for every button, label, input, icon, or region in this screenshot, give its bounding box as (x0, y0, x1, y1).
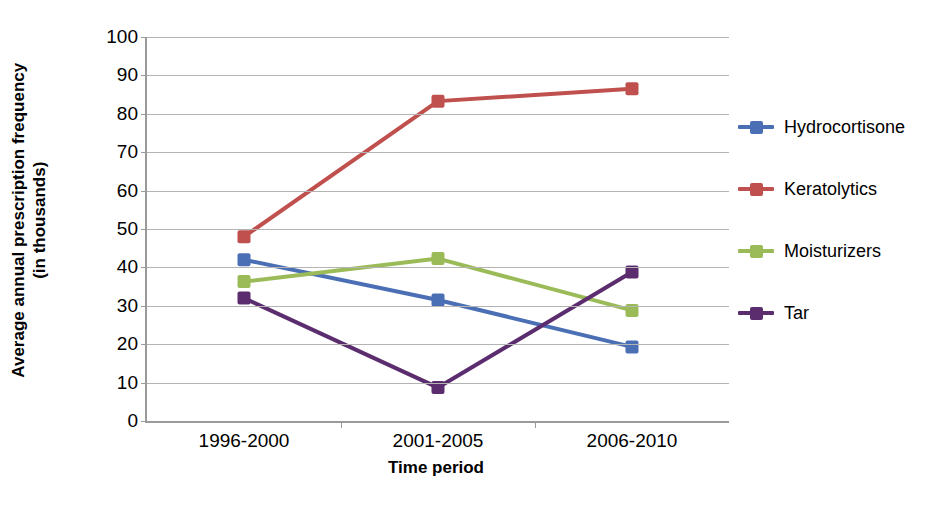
gridline (147, 421, 729, 422)
y-tick-mark (141, 37, 147, 38)
y-tick-label: 70 (117, 141, 138, 163)
x-tick-mark (535, 421, 536, 428)
y-tick-mark (141, 75, 147, 76)
y-tick-label: 40 (117, 256, 138, 278)
legend-marker (750, 183, 763, 196)
legend-swatch-icon (738, 180, 774, 198)
legend-item-hydrocortisone[interactable]: Hydrocortisone (738, 96, 938, 158)
x-tick-label: 1996-2000 (199, 430, 290, 452)
gridline (147, 344, 729, 345)
data-point-marker (432, 95, 445, 108)
data-point-marker (432, 294, 445, 307)
legend-label: Keratolytics (784, 179, 877, 200)
y-tick-label: 0 (127, 410, 138, 432)
legend-marker (750, 121, 763, 134)
gridline (147, 37, 729, 38)
y-tick-label: 30 (117, 295, 138, 317)
y-tick-mark (141, 191, 147, 192)
series-line (244, 272, 632, 388)
y-axis-title-line-1: Average annual prescription frequency (8, 63, 29, 378)
gridline (147, 267, 729, 268)
y-tick-mark (141, 306, 147, 307)
gridline (147, 114, 729, 115)
legend-label: Tar (784, 303, 809, 324)
y-tick-mark (141, 114, 147, 115)
legend-swatch-icon (738, 304, 774, 322)
series-line (244, 89, 632, 237)
chart-page: Average annual prescription frequency (i… (0, 0, 939, 516)
x-tick-mark (341, 421, 342, 428)
x-tick-label: 2006-2010 (587, 430, 678, 452)
y-tick-mark (141, 229, 147, 230)
y-tick-mark (141, 267, 147, 268)
data-point-marker (432, 252, 445, 265)
x-axis-title: Time period (145, 458, 727, 478)
x-tick-label: 2001-2005 (393, 430, 484, 452)
gridline (147, 191, 729, 192)
gridline (147, 75, 729, 76)
y-axis-title: Average annual prescription frequency (i… (0, 0, 58, 440)
data-point-marker (238, 253, 251, 266)
gridline (147, 152, 729, 153)
gridline (147, 229, 729, 230)
data-point-marker (238, 275, 251, 288)
plot-area: 01020304050607080901001996-20002001-2005… (145, 37, 729, 423)
gridline (147, 383, 729, 384)
legend-label: Hydrocortisone (784, 117, 905, 138)
chart-legend: HydrocortisoneKeratolyticsMoisturizersTa… (738, 96, 938, 344)
y-tick-mark (141, 421, 147, 422)
y-tick-label: 60 (117, 180, 138, 202)
y-tick-mark (141, 383, 147, 384)
legend-item-keratolytics[interactable]: Keratolytics (738, 158, 938, 220)
y-axis-title-line-2: (in thousands) (29, 63, 50, 378)
data-point-marker (626, 82, 639, 95)
legend-item-tar[interactable]: Tar (738, 282, 938, 344)
data-point-marker (626, 340, 639, 353)
y-tick-label: 80 (117, 103, 138, 125)
series-keratolytics (238, 82, 639, 243)
legend-swatch-icon (738, 118, 774, 136)
y-tick-label: 10 (117, 372, 138, 394)
legend-item-moisturizers[interactable]: Moisturizers (738, 220, 938, 282)
series-moisturizers (238, 252, 639, 317)
data-point-marker (238, 230, 251, 243)
legend-marker (750, 307, 763, 320)
gridline (147, 306, 729, 307)
legend-label: Moisturizers (784, 241, 881, 262)
series-tar (238, 266, 639, 395)
y-tick-mark (141, 344, 147, 345)
data-point-marker (238, 292, 251, 305)
y-tick-label: 20 (117, 333, 138, 355)
y-tick-label: 100 (106, 26, 138, 48)
y-tick-mark (141, 152, 147, 153)
y-tick-label: 90 (117, 64, 138, 86)
legend-marker (750, 245, 763, 258)
legend-swatch-icon (738, 242, 774, 260)
y-tick-label: 50 (117, 218, 138, 240)
